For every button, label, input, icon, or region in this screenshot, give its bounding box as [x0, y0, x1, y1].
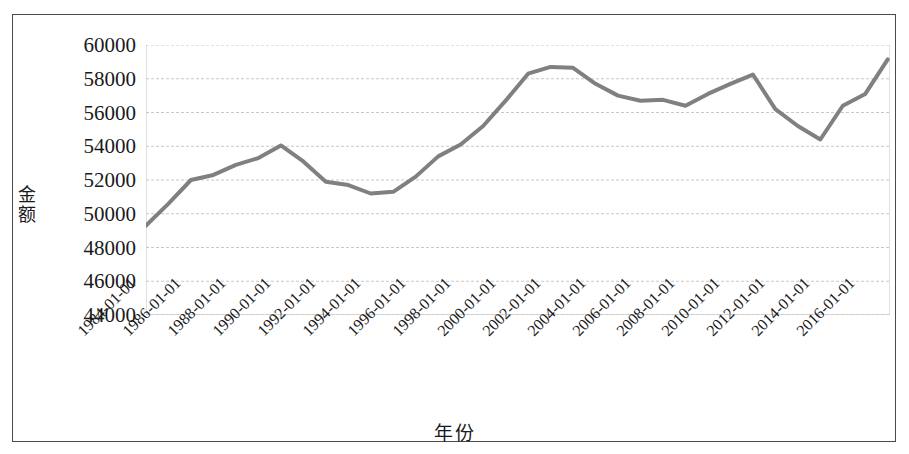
y-axis-tick-label: 56000	[84, 100, 137, 125]
y-axis-tick-label: 52000	[84, 168, 137, 193]
data-series-line	[146, 59, 888, 225]
y-axis-tick-label: 58000	[84, 66, 137, 91]
y-axis-title: 金额	[5, 150, 45, 260]
y-axis-tick-label: 50000	[84, 201, 137, 226]
y-axis-tick-label: 60000	[84, 33, 137, 58]
x-axis-title: 年份	[0, 418, 909, 445]
chart-page: 金额 6000058000560005400052000500004800046…	[0, 0, 909, 454]
plot-area	[146, 45, 890, 315]
y-axis-tick-labels: 6000058000560005400052000500004800046000…	[48, 0, 136, 454]
y-axis-tick-label: 54000	[84, 134, 137, 159]
line-chart-svg	[146, 45, 890, 315]
y-axis-tick-label: 48000	[84, 235, 137, 260]
